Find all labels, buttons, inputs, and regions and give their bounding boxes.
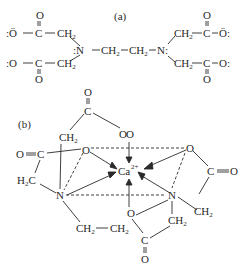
svg-text:CH2: CH2 (174, 27, 193, 41)
svg-text:CH2: CH2 (57, 27, 76, 41)
svg-text:O: O (203, 9, 211, 21)
svg-text:C: C (203, 27, 210, 39)
carboxylate-oxygen: :Ö (6, 27, 17, 39)
svg-text:CH2: CH2 (110, 222, 129, 236)
svg-text:O: O (230, 165, 238, 177)
nitrogen-right: N: (157, 44, 168, 56)
svg-text:C: C (84, 105, 91, 117)
carboxylate-oxygen-right: Ö: (219, 27, 230, 39)
svg-text:O: O (16, 148, 24, 160)
svg-text:CH2: CH2 (59, 131, 78, 145)
svg-text:CH2: CH2 (174, 57, 193, 71)
svg-text:C: C (203, 57, 210, 69)
panel-b-label: (b) (18, 118, 31, 131)
svg-text:O: O (141, 253, 149, 265)
svg-text:O: O (82, 144, 90, 156)
svg-text:C: C (207, 165, 214, 177)
svg-text:O: O (84, 86, 92, 98)
edta-diagram: (a) O :Ö C CH2 :N CH2 CH2 N: :O C CH2 O … (0, 0, 248, 279)
carbonyl-oxygen: O (36, 9, 44, 21)
svg-text:CH2: CH2 (101, 44, 120, 58)
calcium-ion: Ca (118, 165, 130, 177)
carboxyl-oxygen: :O (6, 57, 17, 69)
svg-text:O: O (126, 128, 134, 140)
panel-a: (a) O :Ö C CH2 :N CH2 CH2 N: :O C CH2 O … (6, 9, 230, 85)
panel-a-label: (a) (114, 10, 127, 23)
nitrogen-left: N (56, 189, 64, 201)
svg-text:O: O (203, 73, 211, 85)
carbon: C (35, 27, 42, 39)
svg-text:CH2: CH2 (168, 214, 187, 228)
nitrogen-left: :N (73, 44, 84, 56)
svg-text:H2C: H2C (17, 174, 36, 188)
nitrogen-right: N (168, 189, 176, 201)
calcium-charge: 2+ (131, 163, 139, 171)
svg-text:C: C (37, 148, 44, 160)
panel-b: (b) O C O CH2 O O C H2C N CH2 CH2 Ca 2+ … (16, 86, 238, 265)
svg-text:CH2: CH2 (194, 205, 213, 219)
svg-text:O: O (127, 207, 135, 219)
svg-text:O:: O: (219, 57, 230, 69)
svg-text:O: O (186, 142, 194, 154)
svg-text:C: C (141, 234, 148, 246)
svg-text:CH2: CH2 (129, 44, 148, 58)
svg-text:CH2: CH2 (76, 222, 95, 236)
svg-text:C: C (35, 57, 42, 69)
svg-text:O: O (35, 73, 43, 85)
